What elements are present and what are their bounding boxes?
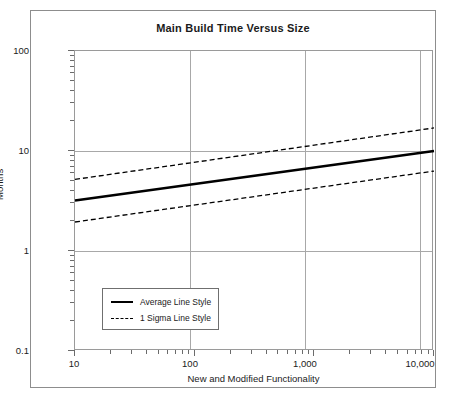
- y-tick-label-1: 1: [0, 245, 29, 256]
- page-title: Main Build Time Versus Size: [30, 22, 436, 34]
- series-1sigma-lower: [75, 171, 434, 222]
- legend-label-1sigma: 1 Sigma Line Style: [140, 313, 211, 323]
- y-tick-label-100: 100: [0, 45, 29, 56]
- legend-swatch-dashed-icon: [111, 318, 133, 319]
- x-tick-label-100: 100: [155, 358, 225, 369]
- legend-swatch-solid-icon: [111, 301, 133, 303]
- y-axis-title: Months: [0, 169, 5, 200]
- series-average: [75, 151, 434, 200]
- series-1sigma-upper: [75, 128, 434, 179]
- x-tick-label-10: 10: [39, 358, 109, 369]
- x-tick-label-1000: 1,000: [270, 358, 340, 369]
- legend-label-average: Average Line Style: [140, 297, 211, 307]
- x-axis-title: New and Modified Functionality: [74, 373, 433, 384]
- y-tick-label-0.1: 0.1: [0, 345, 29, 356]
- legend-item-1sigma: 1 Sigma Line Style: [111, 311, 211, 325]
- y-tick-label-10: 10: [0, 145, 29, 156]
- chart-legend: Average Line Style 1 Sigma Line Style: [102, 288, 219, 330]
- x-tick-label-10000: 10,000: [385, 358, 455, 369]
- legend-item-average: Average Line Style: [111, 295, 211, 309]
